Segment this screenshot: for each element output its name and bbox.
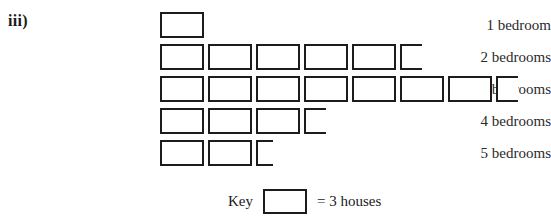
row-label-2-bedrooms: 2 bedrooms <box>405 44 551 70</box>
house-symbol <box>352 44 396 70</box>
house-symbol <box>256 76 300 102</box>
house-symbol <box>304 44 348 70</box>
row-symbols-3-bedrooms <box>160 76 522 102</box>
house-symbol <box>400 76 444 102</box>
house-symbol <box>208 140 252 166</box>
pictogram-row-5-bedrooms: 5 bedrooms <box>0 140 551 166</box>
house-symbol <box>304 76 348 102</box>
row-label-1-bedroom: 1 bedroom <box>405 12 551 38</box>
house-symbol <box>352 76 396 102</box>
house-symbol <box>160 140 204 166</box>
key-inner: Key = 3 houses <box>228 186 381 216</box>
pictogram-row-2-bedrooms: 2 bedrooms <box>0 44 551 70</box>
row-label-5-bedrooms: 5 bedrooms <box>405 140 551 166</box>
pictogram-row-3-bedrooms: 3 bedrooms <box>0 76 551 102</box>
house-symbol <box>256 108 300 134</box>
row-symbols-5-bedrooms <box>160 140 277 166</box>
pictogram-row-4-bedrooms: 4 bedrooms <box>0 108 551 134</box>
pictogram-figure: iii) 1 bedroom 2 bedrooms 3 bedrooms <box>0 0 551 220</box>
row-symbols-4-bedrooms <box>160 108 330 134</box>
house-symbol <box>256 44 300 70</box>
key-value-text: = 3 houses <box>317 194 381 209</box>
house-symbol <box>208 76 252 102</box>
row-symbols-1-bedroom <box>160 12 208 38</box>
key-house-symbol <box>263 189 307 214</box>
house-symbol <box>448 76 492 102</box>
house-symbol <box>208 44 252 70</box>
row-symbols-2-bedrooms <box>160 44 426 70</box>
house-symbol-partial <box>496 76 518 102</box>
house-symbol <box>160 76 204 102</box>
house-symbol <box>208 108 252 134</box>
house-symbol-partial <box>256 140 273 166</box>
pictogram-key: Key = 3 houses <box>0 186 551 216</box>
house-symbol-partial <box>400 44 422 70</box>
house-symbol <box>160 108 204 134</box>
row-label-4-bedrooms: 4 bedrooms <box>405 108 551 134</box>
house-symbol <box>160 44 204 70</box>
house-symbol <box>160 12 204 38</box>
house-symbol-partial <box>304 108 326 134</box>
key-label: Key <box>228 194 253 209</box>
pictogram-row-1-bedroom: 1 bedroom <box>0 12 551 38</box>
